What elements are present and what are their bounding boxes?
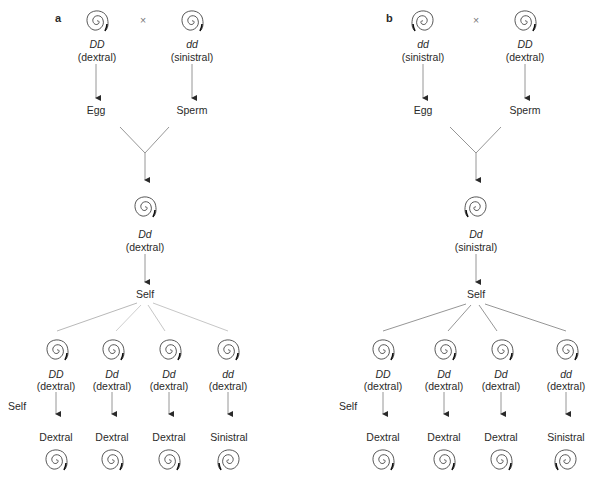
offspring-phenotype: Dextral (95, 431, 128, 443)
sinistral-shell-icon (409, 7, 437, 35)
offspring-phenotype: Dextral (39, 431, 72, 443)
f1-genotype: Dd (138, 228, 151, 240)
f2-self-label: Self (339, 400, 357, 412)
f2-genotype: Dd (494, 368, 507, 380)
dextral-shell-icon (487, 446, 515, 474)
cross-symbol: × (140, 14, 146, 26)
gamete-sperm: Sperm (177, 104, 208, 116)
dextral-shell-icon (511, 7, 539, 35)
f2-genotype: Dd (162, 368, 175, 380)
dextral-shell-icon (156, 336, 184, 364)
dextral-shell-icon (83, 7, 111, 35)
parent-genotype: DD (89, 38, 104, 50)
f2-phenotype: (dextral) (209, 380, 248, 392)
dextral-shell-icon (369, 336, 397, 364)
dextral-shell-icon (99, 336, 127, 364)
parent-phenotype: (sinistral) (171, 51, 214, 63)
dextral-shell-icon (98, 446, 126, 474)
offspring-phenotype: Dextral (484, 431, 517, 443)
f2-phenotype: (dextral) (482, 380, 521, 392)
parent-phenotype: (dextral) (78, 51, 117, 63)
gamete-egg: Egg (87, 104, 106, 116)
f2-phenotype: (dextral) (37, 380, 76, 392)
self-label: Self (136, 288, 154, 300)
f1-phenotype: (dextral) (126, 241, 165, 253)
cross-symbol: × (473, 14, 479, 26)
f2-phenotype: (dextral) (364, 380, 403, 392)
f2-genotype: Dd (437, 368, 450, 380)
f2-phenotype: (dextral) (93, 380, 132, 392)
offspring-phenotype: Dextral (366, 431, 399, 443)
dextral-shell-icon (214, 336, 242, 364)
dextral-shell-icon (155, 446, 183, 474)
f2-genotype: dd (560, 368, 572, 380)
f2-phenotype: (dextral) (547, 380, 586, 392)
f1-genotype: Dd (469, 228, 482, 240)
gamete-egg: Egg (414, 104, 433, 116)
f2-self-label: Self (8, 400, 26, 412)
f1-phenotype: (sinistral) (455, 241, 498, 253)
offspring-phenotype: Sinistral (210, 431, 247, 443)
parent-phenotype: (dextral) (506, 51, 545, 63)
f2-genotype: Dd (105, 368, 118, 380)
dextral-shell-icon (430, 446, 458, 474)
offspring-phenotype: Sinistral (547, 431, 584, 443)
dextral-shell-icon (369, 446, 397, 474)
panel-label: b (386, 12, 393, 24)
parent-genotype: dd (186, 38, 198, 50)
parent-phenotype: (sinistral) (402, 51, 445, 63)
dextral-shell-icon (131, 193, 159, 221)
offspring-phenotype: Dextral (152, 431, 185, 443)
parent-genotype: DD (517, 38, 532, 50)
sinistral-shell-icon (552, 446, 580, 474)
sinistral-shell-icon (462, 193, 490, 221)
f2-genotype: DD (375, 368, 390, 380)
f2-genotype: dd (222, 368, 234, 380)
sinistral-shell-icon (215, 446, 243, 474)
f2-phenotype: (dextral) (150, 380, 189, 392)
dextral-shell-icon (488, 336, 516, 364)
panel-label: a (55, 12, 61, 24)
dextral-shell-icon (43, 336, 71, 364)
dextral-shell-icon (553, 336, 581, 364)
parent-genotype: dd (417, 38, 429, 50)
f2-phenotype: (dextral) (425, 380, 464, 392)
f2-genotype: DD (48, 368, 63, 380)
self-label: Self (467, 288, 485, 300)
dextral-shell-icon (178, 7, 206, 35)
connector-lines (0, 0, 596, 481)
gamete-sperm: Sperm (510, 104, 541, 116)
dextral-shell-icon (42, 446, 70, 474)
dextral-shell-icon (431, 336, 459, 364)
offspring-phenotype: Dextral (427, 431, 460, 443)
